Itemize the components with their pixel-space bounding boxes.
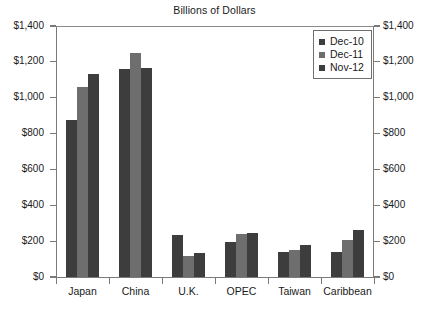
y-axis-right-tick (374, 25, 380, 26)
legend-swatch-icon (319, 39, 325, 45)
y-axis-right-label: $1,200 (383, 56, 414, 66)
y-axis-right-tick (374, 241, 380, 242)
legend-item-label: Nov-12 (330, 62, 364, 73)
bar (119, 69, 130, 277)
legend-item: Dec-10 (319, 35, 364, 48)
y-axis-right-tick (374, 205, 380, 206)
x-axis-tick (321, 278, 322, 284)
x-axis-label: OPEC (215, 286, 268, 297)
y-axis-right-tick (374, 133, 380, 134)
x-axis-label: Taiwan (268, 286, 321, 297)
y-axis-right-tick (374, 97, 380, 98)
y-axis-left-tick (50, 241, 56, 242)
x-axis-label: Japan (56, 286, 109, 297)
y-axis-right-tick (374, 61, 380, 62)
legend-swatch-icon (319, 65, 325, 71)
bar (300, 245, 311, 277)
x-axis-tick (109, 278, 110, 284)
bar-chart: Billions of Dollars Dec-10Dec-11Nov-12 $… (0, 0, 429, 315)
x-axis-tick (162, 278, 163, 284)
x-axis-tick (56, 278, 57, 284)
chart-title: Billions of Dollars (0, 4, 429, 16)
bar (130, 53, 141, 277)
x-axis-label: Caribbean (321, 286, 374, 297)
y-axis-right-label: $200 (383, 236, 405, 246)
legend-item: Nov-12 (319, 61, 364, 74)
bar (331, 252, 342, 277)
bar (247, 233, 258, 277)
y-axis-left-label: $200 (22, 236, 44, 246)
y-axis-right-label: $400 (383, 200, 405, 210)
y-axis-left-label: $1,200 (13, 56, 44, 66)
y-axis-left-label: $800 (22, 128, 44, 138)
y-axis-right-label: $1,400 (383, 21, 414, 31)
y-axis-left-label: $1,400 (13, 21, 44, 31)
bar (88, 74, 99, 277)
bar (194, 253, 205, 277)
y-axis-right-label: $1,000 (383, 92, 414, 102)
bar (141, 68, 152, 277)
bar (225, 242, 236, 277)
x-axis-tick (374, 278, 375, 284)
y-axis-left-tick (50, 97, 56, 98)
y-axis-left-label: $400 (22, 200, 44, 210)
bar (236, 234, 247, 277)
y-axis-left-tick (50, 25, 56, 26)
bar (77, 87, 88, 277)
y-axis-left-label: $600 (22, 164, 44, 174)
bar (289, 250, 300, 277)
bar (353, 230, 364, 278)
y-axis-right-label: $600 (383, 164, 405, 174)
x-axis-label: China (109, 286, 162, 297)
y-axis-left-tick (50, 133, 56, 134)
legend-item-label: Dec-11 (330, 49, 363, 60)
bar (183, 256, 194, 278)
bar (342, 240, 353, 277)
y-axis-left-tick (50, 205, 56, 206)
y-axis-right-tick (374, 169, 380, 170)
y-axis-left-label: $1,000 (13, 92, 44, 102)
y-axis-right-label: $0 (383, 272, 394, 282)
x-axis-tick (268, 278, 269, 284)
x-axis-label: U.K. (162, 286, 215, 297)
y-axis-left-tick (50, 169, 56, 170)
bar (66, 120, 77, 277)
legend-item: Dec-11 (319, 48, 364, 61)
y-axis-right-label: $800 (383, 128, 405, 138)
legend-swatch-icon (319, 52, 325, 58)
bar (278, 252, 289, 277)
chart-legend: Dec-10Dec-11Nov-12 (313, 30, 372, 79)
x-axis-tick (215, 278, 216, 284)
y-axis-left-label: $0 (33, 272, 44, 282)
legend-item-label: Dec-10 (330, 36, 364, 47)
bar (172, 235, 183, 277)
y-axis-left-tick (50, 61, 56, 62)
